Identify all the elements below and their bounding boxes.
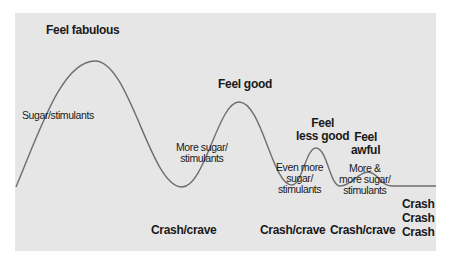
label-even-more-sugar: Even moresugar/stimulants xyxy=(276,162,323,195)
label-feel-fabulous: Feel fabulous xyxy=(46,24,119,37)
label-more-sugar: More sugar/stimulants xyxy=(176,142,228,164)
label-feel-good: Feel good xyxy=(218,78,272,91)
label-feel-awful: Feelawful xyxy=(351,131,380,156)
label-feel-less-good: Feelless good xyxy=(296,117,349,142)
label-sugar-stimulants: Sugar/stimulants xyxy=(22,110,94,121)
label-crash-crash-crash: CrashCrashCrash xyxy=(402,197,435,239)
label-crash-crave-1: Crash/crave xyxy=(151,224,216,237)
label-more-and-more-sugar: More &more sugar/stimulants xyxy=(339,163,391,196)
label-crash-crave-2: Crash/crave xyxy=(260,224,325,237)
label-crash-crave-3: Crash/crave xyxy=(330,224,395,237)
